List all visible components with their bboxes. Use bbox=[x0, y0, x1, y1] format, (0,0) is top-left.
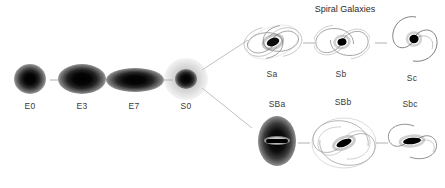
galaxy-e7 bbox=[106, 68, 164, 92]
galaxy-sa bbox=[243, 17, 303, 67]
galaxy-sc bbox=[390, 12, 442, 66]
label-sb: Sb bbox=[325, 69, 357, 79]
e3-blob bbox=[58, 64, 106, 94]
sc-nucleus bbox=[409, 35, 418, 43]
galaxy-sba bbox=[258, 116, 296, 166]
e7-blob bbox=[106, 68, 164, 92]
fork-line-upper bbox=[202, 40, 248, 70]
galaxy-e0 bbox=[14, 64, 46, 94]
spiral-galaxies-title: Spiral Galaxies bbox=[290, 4, 400, 14]
label-e3: E3 bbox=[66, 101, 98, 111]
sbb-arm-1 bbox=[320, 134, 375, 166]
e0-blob bbox=[14, 64, 46, 94]
label-sa: Sa bbox=[256, 69, 288, 79]
s0-nucleus bbox=[175, 69, 197, 89]
sb-nucleus bbox=[337, 38, 347, 47]
sba-bar-core bbox=[266, 139, 288, 144]
fork-line-lower bbox=[202, 88, 252, 128]
label-e7: E7 bbox=[118, 101, 150, 111]
galaxy-sbb bbox=[309, 112, 379, 174]
label-sbb: SBb bbox=[327, 97, 359, 107]
galaxy-sbc bbox=[386, 118, 442, 164]
label-s0: S0 bbox=[170, 101, 202, 111]
galaxy-sb bbox=[314, 18, 370, 66]
sbb-arm-2 bbox=[313, 121, 368, 153]
label-sbc: Sbc bbox=[394, 99, 426, 109]
label-sc: Sc bbox=[396, 73, 428, 83]
galaxy-e3 bbox=[58, 64, 106, 94]
galaxy-s0 bbox=[164, 58, 208, 100]
label-e0: E0 bbox=[14, 101, 46, 111]
hubble-tuning-fork-diagram: Spiral Galaxies E0 E3 E7 S0 Sa Sb Sc SBa… bbox=[0, 0, 445, 188]
label-sba: SBa bbox=[261, 99, 293, 109]
